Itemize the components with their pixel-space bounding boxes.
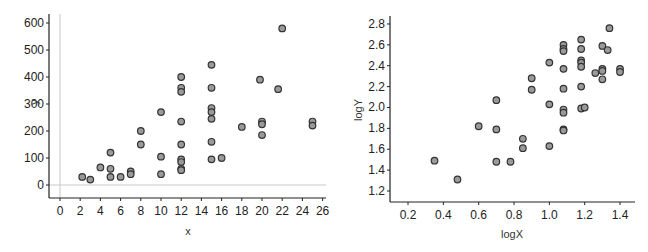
x-tick-label: 4 (97, 204, 104, 218)
data-point (617, 69, 624, 76)
y-tick-label: 2.0 (368, 100, 385, 114)
scatter-chart-x-vs-y: 0100200300400500600024681012141618202224… (0, 0, 330, 252)
x-tick-label: 0.8 (506, 208, 523, 222)
data-point (507, 158, 514, 165)
y-tick-label: 0 (37, 178, 44, 192)
data-points (79, 25, 316, 183)
data-point (546, 143, 553, 150)
data-point (493, 126, 500, 133)
data-point (592, 70, 599, 77)
data-point (79, 174, 86, 181)
data-point (520, 136, 527, 143)
y-tick-label: 1.2 (368, 184, 385, 198)
data-point (578, 83, 585, 90)
y-tick-label: 2.4 (368, 59, 385, 73)
data-points (431, 25, 623, 183)
x-tick-label: 12 (175, 204, 189, 218)
data-point (604, 47, 611, 54)
data-point (178, 141, 185, 148)
data-point (578, 46, 585, 53)
x-tick-label: 8 (137, 204, 144, 218)
data-point (606, 25, 613, 32)
data-point (138, 141, 145, 148)
x-tick-label: 22 (276, 204, 290, 218)
x-tick-label: 24 (296, 204, 310, 218)
x-tick-label: 1.2 (576, 208, 593, 222)
data-point (208, 85, 215, 92)
x-tick-label: 20 (255, 204, 269, 218)
data-point (578, 63, 585, 70)
data-point (259, 132, 266, 139)
data-point (560, 48, 567, 55)
data-point (599, 76, 606, 83)
data-point (520, 145, 527, 152)
data-point (581, 104, 588, 111)
data-point (158, 171, 165, 178)
data-point (158, 153, 165, 160)
y-tick-label: 1.8 (368, 121, 385, 135)
data-point (546, 59, 553, 66)
x-tick-label: 0.4 (435, 208, 452, 222)
chart-left-canvas: 0100200300400500600024681012141618202224… (0, 0, 330, 252)
data-point (560, 85, 567, 92)
data-point (208, 109, 215, 116)
data-point (178, 74, 185, 81)
y-axis-title: y (28, 99, 40, 105)
x-tick-label: 14 (195, 204, 209, 218)
data-point (158, 109, 165, 116)
data-point (599, 68, 606, 75)
chart-right-canvas: 1.21.41.61.82.02.22.42.62.80.20.40.60.81… (330, 0, 648, 252)
data-point (546, 101, 553, 108)
data-point (138, 128, 145, 135)
data-point (178, 118, 185, 125)
y-axis-title: logY (352, 98, 364, 121)
data-point (275, 86, 282, 93)
x-tick-label: 1.4 (612, 208, 629, 222)
data-point (560, 127, 567, 134)
y-tick-label: 1.4 (368, 163, 385, 177)
data-point (528, 75, 535, 82)
data-point (239, 124, 246, 131)
x-tick-label: 0 (57, 204, 64, 218)
data-point (97, 164, 104, 171)
x-tick-label: 18 (235, 204, 249, 218)
data-point (178, 89, 185, 96)
data-point (309, 122, 316, 129)
data-point (208, 116, 215, 123)
x-axis-title: logX (501, 228, 524, 240)
x-tick-label: 0.2 (400, 208, 417, 222)
x-tick-label: 1.0 (541, 208, 558, 222)
data-point (431, 157, 438, 164)
data-point (208, 156, 215, 163)
y-tick-label: 1.6 (368, 142, 385, 156)
y-tick-label: 500 (24, 43, 44, 57)
y-tick-label: 400 (24, 70, 44, 84)
scatter-chart-logx-vs-logy: 1.21.41.61.82.02.22.42.62.80.20.40.60.81… (330, 0, 648, 252)
y-tick-label: 2.2 (368, 80, 385, 94)
data-point (208, 62, 215, 69)
data-point (178, 167, 185, 174)
x-tick-label: 16 (215, 204, 229, 218)
x-tick-label: 6 (117, 204, 124, 218)
data-point (87, 176, 94, 183)
data-point (107, 149, 114, 156)
data-point (475, 123, 482, 130)
data-point (560, 66, 567, 73)
data-point (493, 97, 500, 104)
data-point (279, 25, 286, 32)
y-tick-label: 600 (24, 16, 44, 30)
data-point (578, 36, 585, 43)
data-point (117, 174, 124, 181)
data-point (528, 86, 535, 93)
data-point (454, 176, 461, 183)
y-tick-label: 100 (24, 151, 44, 165)
data-point (218, 155, 225, 162)
y-tick-label: 2.8 (368, 17, 385, 31)
x-tick-label: 0.6 (470, 208, 487, 222)
data-point (257, 76, 264, 83)
data-point (208, 139, 215, 146)
x-tick-label: 2 (77, 204, 84, 218)
data-point (259, 121, 266, 128)
x-tick-label: 26 (316, 204, 330, 218)
data-point (127, 171, 134, 178)
